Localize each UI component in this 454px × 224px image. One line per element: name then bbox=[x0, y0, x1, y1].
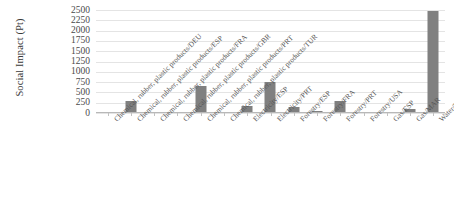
x-axis-tick-label: Chemical, rubber, plastic products/DEU bbox=[112, 117, 118, 123]
bar-slot bbox=[329, 10, 352, 113]
bar bbox=[428, 11, 439, 113]
y-axis-tick-labels: 25002250200017501500125010007505002500 bbox=[46, 0, 90, 224]
x-axis-tick-label: Gas/ESP bbox=[391, 117, 397, 123]
y-axis-tick-label: 750 bbox=[76, 78, 90, 88]
bar-slot bbox=[259, 10, 282, 113]
bar-slot bbox=[143, 10, 166, 113]
y-axis-tick-label: 250 bbox=[76, 98, 90, 108]
x-axis-tick-label: Chemical, rubber, plastic products/FRA bbox=[158, 117, 164, 123]
x-axis-tick-label: Chemical, rubber, plastic products/TUR bbox=[228, 117, 234, 123]
bar-slot bbox=[96, 10, 119, 113]
bar-slot bbox=[352, 10, 375, 113]
y-axis-tick-label: 500 bbox=[76, 88, 90, 98]
y-axis-tick-label: 1750 bbox=[71, 36, 90, 46]
x-axis-tick-label: Water/PRT bbox=[437, 117, 443, 123]
y-axis-tick-label: 1000 bbox=[71, 67, 90, 77]
y-axis-tick-label: 2500 bbox=[71, 6, 90, 16]
bar bbox=[265, 82, 276, 113]
plot-area bbox=[96, 10, 445, 113]
y-axis-tick-label: 0 bbox=[85, 109, 90, 119]
bar-slot bbox=[375, 10, 398, 113]
bar-slot bbox=[212, 10, 235, 113]
x-axis-line bbox=[96, 112, 445, 113]
x-axis-tick-label: Forestry/USA bbox=[368, 117, 374, 123]
bar-slot bbox=[236, 10, 259, 113]
x-axis-tick-label: Chemical, rubber, plastic products/GBR bbox=[181, 117, 187, 123]
y-axis-title: Social Impact (Pt) bbox=[14, 2, 25, 114]
y-axis-tick-label: 2250 bbox=[71, 16, 90, 26]
bar-slot bbox=[166, 10, 189, 113]
social-impact-bar-chart: Social Impact (Pt) 250022502000175015001… bbox=[0, 0, 454, 224]
x-axis-tick-label: Forestry/FRA bbox=[321, 117, 327, 123]
x-axis-tick-label: Electricity/PRT bbox=[275, 117, 281, 123]
x-axis-tick-label: Forestry/PRT bbox=[344, 117, 350, 123]
x-axis-tick-label: Chemical, rubber, plastic products/PRT bbox=[205, 117, 211, 123]
gridline bbox=[96, 113, 445, 114]
bar-slot bbox=[189, 10, 212, 113]
x-axis-tick-label: Gas/MAR bbox=[414, 117, 420, 123]
bar-slot bbox=[398, 10, 421, 113]
bar-slot bbox=[282, 10, 305, 113]
y-axis-tick-label: 1500 bbox=[71, 47, 90, 57]
y-axis-tick-label: 2000 bbox=[71, 26, 90, 36]
bar-slot bbox=[305, 10, 328, 113]
x-axis-tick-label: Chemical, rubber, plastic products/ESP bbox=[135, 117, 141, 123]
x-axis-tick-label: Forestry/ESP bbox=[298, 117, 304, 123]
x-axis-tick-label: Electricity/ESP bbox=[251, 117, 257, 123]
y-axis-tick-label: 1250 bbox=[71, 57, 90, 67]
bar bbox=[195, 86, 206, 113]
bar-slot bbox=[422, 10, 445, 113]
bar-slot bbox=[119, 10, 142, 113]
